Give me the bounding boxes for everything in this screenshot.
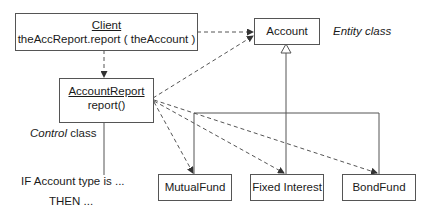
- client-class-box[interactable]: Client theAccReport.report ( theAccount …: [15, 13, 198, 51]
- fixedinterest-class-box[interactable]: Fixed Interest: [250, 174, 324, 201]
- dep-accountreport-bondfund: [154, 100, 377, 173]
- accountreport-operation: report(): [60, 98, 153, 112]
- mutualfund-class-name: MutualFund: [165, 181, 226, 193]
- control-word: Control: [30, 127, 67, 139]
- account-class-box[interactable]: Account: [254, 18, 320, 45]
- bondfund-class-box[interactable]: BondFund: [342, 174, 416, 201]
- account-class-name: Account: [266, 25, 308, 37]
- generalization-triangle-icon: [281, 44, 291, 53]
- entity-class-label: Entity class: [333, 25, 391, 37]
- dep-accountreport-fixedinterest: [154, 101, 284, 173]
- bondfund-class-name: BondFund: [352, 181, 405, 193]
- accountreport-class-box[interactable]: AccountReport report(): [59, 78, 154, 123]
- fixedinterest-class-name: Fixed Interest: [252, 181, 322, 193]
- accountreport-class-name: AccountReport: [60, 84, 153, 98]
- dep-accountreport-mutualfund: [154, 102, 193, 173]
- condition-if-text: IF Account type is ...: [21, 175, 125, 187]
- client-operation: theAccReport.report ( theAccount ): [16, 32, 197, 46]
- class-word: class: [67, 127, 96, 139]
- client-class-name: Client: [16, 18, 197, 32]
- control-class-label: Control class: [30, 127, 96, 139]
- mutualfund-class-box[interactable]: MutualFund: [158, 174, 232, 201]
- condition-then-text: THEN ...: [49, 195, 93, 207]
